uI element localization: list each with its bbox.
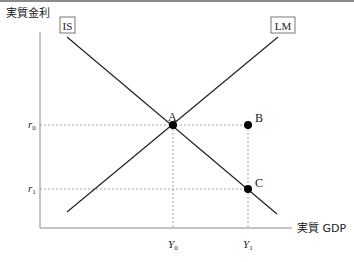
is-lm-diagram: 実質金利 実質 GDP IS LM A B C r0 r1 Y0 Y1	[0, 0, 354, 262]
point-c	[244, 185, 252, 193]
is-label: IS	[63, 20, 73, 32]
guide-lines	[40, 125, 248, 228]
y1-tick: Y1	[243, 238, 253, 252]
lm-label-box: LM	[271, 17, 295, 33]
point-b-label: B	[255, 111, 263, 125]
r0-tick: r0	[28, 118, 36, 132]
point-a-label: A	[168, 110, 177, 124]
is-label-box: IS	[60, 17, 75, 33]
x-axis-label: 実質 GDP	[297, 221, 346, 235]
y0-tick: Y0	[168, 238, 178, 252]
y-axis-label: 実質金利	[6, 6, 50, 20]
r1-tick: r1	[28, 182, 36, 196]
point-b	[244, 121, 252, 129]
point-c-label: C	[255, 176, 263, 190]
lm-label: LM	[275, 20, 292, 32]
